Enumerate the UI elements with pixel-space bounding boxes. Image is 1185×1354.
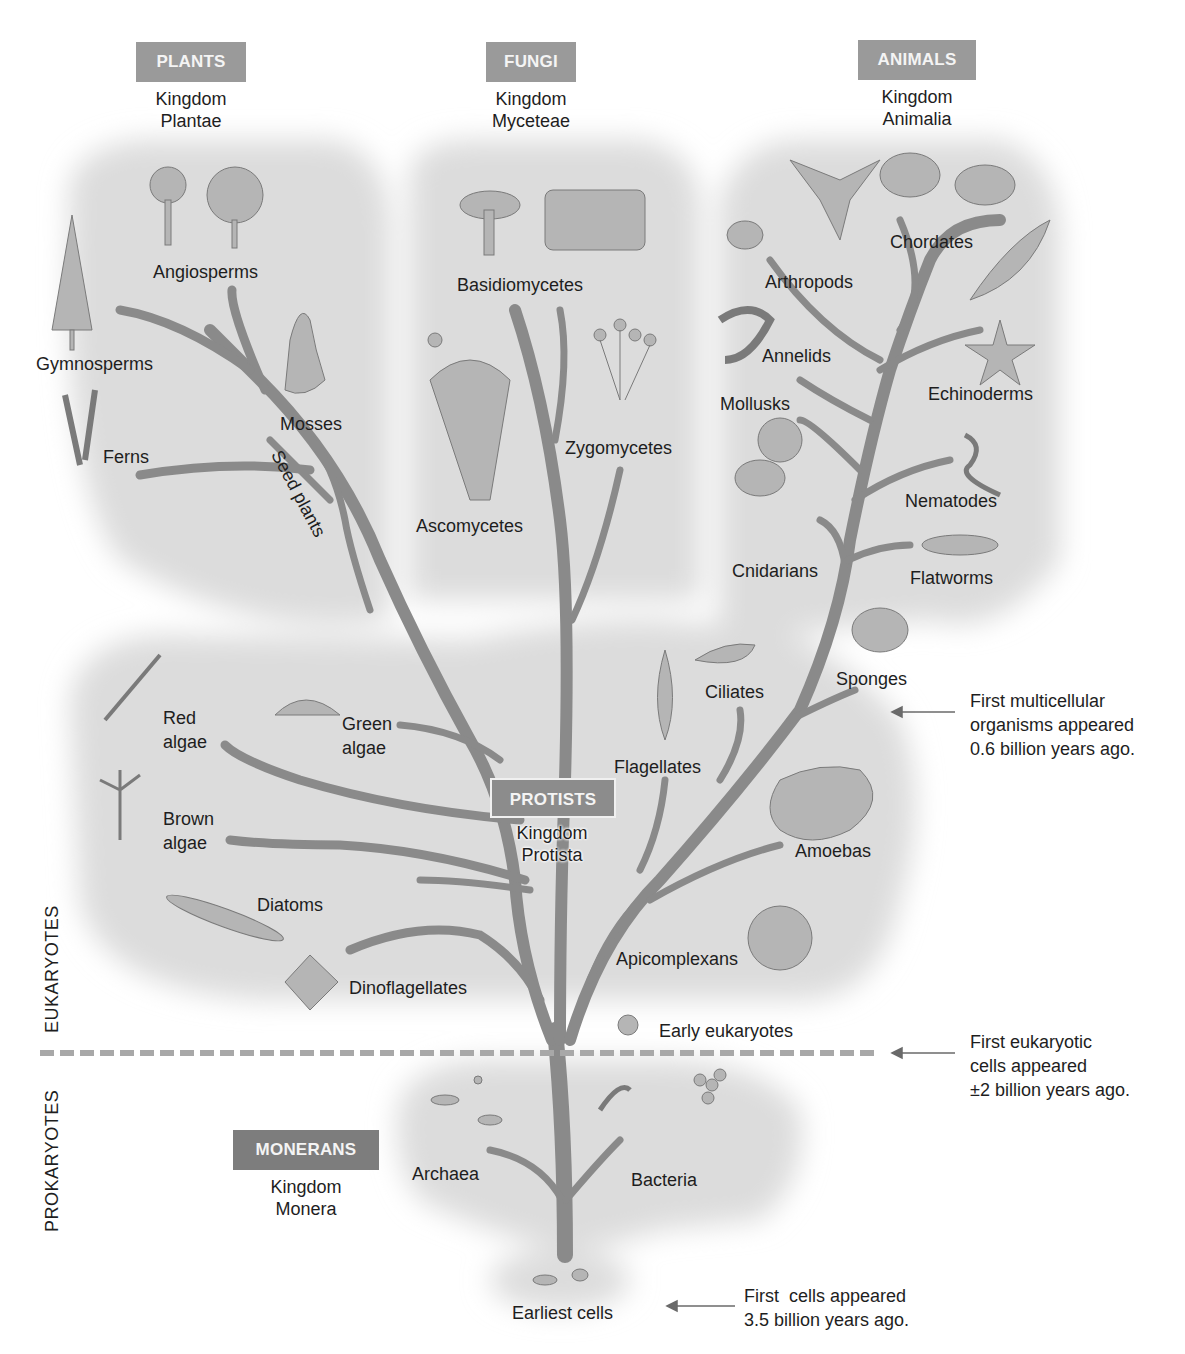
label-gymnosperms: Gymnosperms <box>36 353 153 375</box>
milestone-eukaryotic: First eukaryotic cells appeared ±2 billi… <box>970 1030 1130 1102</box>
fungi-kingdom-line1: Kingdom <box>495 89 566 109</box>
label-zygomycetes: Zygomycetes <box>565 437 672 459</box>
angiosperm-palm-icon <box>150 167 186 203</box>
label-earliest-cells: Earliest cells <box>512 1302 613 1324</box>
jellyfish-icon <box>735 460 785 496</box>
plants-badge: PLANTS <box>136 42 246 82</box>
label-amoebas: Amoebas <box>795 840 871 862</box>
fly-icon <box>727 221 763 249</box>
label-angiosperms: Angiosperms <box>153 261 258 283</box>
label-flagellates: Flagellates <box>614 756 701 778</box>
monerans-kingdom-line2: Monera <box>275 1199 336 1219</box>
milestone-first-cells: First cells appeared 3.5 billion years a… <box>744 1284 909 1332</box>
label-early-eukaryotes: Early eukaryotes <box>659 1020 793 1042</box>
protists-kingdom-line1: Kingdom <box>516 823 587 843</box>
apicomplexan-icon <box>748 906 812 970</box>
monerans-kingdom-line1: Kingdom <box>270 1177 341 1197</box>
animals-badge: ANIMALS <box>858 40 976 80</box>
label-archaea: Archaea <box>412 1163 479 1185</box>
label-sponges: Sponges <box>836 668 907 690</box>
animals-kingdom-label: KingdomAnimalia <box>881 86 952 130</box>
monerans-kingdom-label: KingdomMonera <box>270 1176 341 1220</box>
early-eukaryote-icon <box>618 1015 638 1035</box>
label-ferns: Ferns <box>103 446 149 468</box>
label-mosses: Mosses <box>280 413 342 435</box>
label-green-algae-line2: algae <box>342 738 386 758</box>
label-apicomplexans: Apicomplexans <box>616 948 738 970</box>
label-ascomycetes: Ascomycetes <box>416 515 523 537</box>
label-cnidarians: Cnidarians <box>732 560 818 582</box>
label-brown-algae-line1: Brown <box>163 809 214 829</box>
label-red-algae: Redalgae <box>163 706 207 754</box>
label-nematodes: Nematodes <box>905 490 997 512</box>
fungi-badge: FUNGI <box>486 42 576 82</box>
plants-kingdom-line1: Kingdom <box>155 89 226 109</box>
monerans-badge: MONERANS <box>233 1130 379 1170</box>
label-annelids: Annelids <box>762 345 831 367</box>
fungi-kingdom-label: KingdomMyceteae <box>492 88 570 132</box>
label-prokaryotes: PROKARYOTES <box>42 1090 63 1232</box>
mouse-icon <box>880 153 940 197</box>
label-ciliates: Ciliates <box>705 681 764 703</box>
protists-kingdom-label: KingdomProtista <box>516 822 587 866</box>
label-dinoflagellates: Dinoflagellates <box>349 977 467 999</box>
label-chordates: Chordates <box>890 231 973 253</box>
label-arthropods: Arthropods <box>765 271 853 293</box>
monerans-region <box>398 1060 802 1250</box>
label-bacteria: Bacteria <box>631 1169 697 1191</box>
animals-kingdom-line2: Animalia <box>882 109 951 129</box>
label-red-algae-line1: Red <box>163 708 196 728</box>
fungi-kingdom-line2: Myceteae <box>492 111 570 131</box>
bracket-fungus-icon <box>545 190 645 250</box>
frog-icon <box>955 165 1015 205</box>
label-red-algae-line2: algae <box>163 732 207 752</box>
label-eukaryotes: EUKARYOTES <box>42 905 63 1033</box>
flatworm-icon <box>922 535 998 555</box>
protists-badge: PROTISTS <box>490 778 616 818</box>
label-brown-algae-line2: algae <box>163 833 207 853</box>
phylogenetic-tree-diagram <box>0 0 1185 1354</box>
plants-kingdom-label: KingdomPlantae <box>155 88 226 132</box>
sponge-icon <box>852 608 908 652</box>
protists-kingdom-line2: Protista <box>521 845 582 865</box>
label-flatworms: Flatworms <box>910 567 993 589</box>
angiosperm-tree-icon <box>207 167 263 223</box>
yeast-icon <box>428 333 442 347</box>
milestone-multicellular: First multicellular organisms appeared 0… <box>970 689 1135 761</box>
label-diatoms: Diatoms <box>257 894 323 916</box>
label-green-algae-line1: Green <box>342 714 392 734</box>
label-mollusks: Mollusks <box>720 393 790 415</box>
label-green-algae: Greenalgae <box>342 712 392 760</box>
plants-kingdom-line2: Plantae <box>160 111 221 131</box>
label-echinoderms: Echinoderms <box>928 383 1033 405</box>
animals-kingdom-line1: Kingdom <box>881 87 952 107</box>
snail-icon <box>758 418 802 462</box>
label-basidiomycetes: Basidiomycetes <box>457 274 583 296</box>
label-brown-algae: Brownalgae <box>163 807 214 855</box>
